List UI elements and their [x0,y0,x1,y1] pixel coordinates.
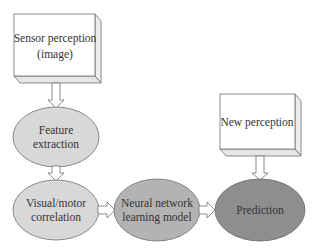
arrow-visual-to-neural [98,202,115,218]
feature-extraction-label: Feature [39,124,73,136]
visual-motor-sublabel: correlation [31,211,81,223]
prediction-label: Prediction [236,204,284,216]
arrow-sensor-to-feature [48,83,64,108]
flow-diagram: Sensor perception (image) Feature extrac… [0,0,317,249]
feature-extraction-sublabel: extraction [33,138,79,150]
prediction-node: Prediction [215,179,305,241]
sensor-perception-label: Sensor perception [14,32,97,45]
sensor-perception-sublabel: (image) [37,48,73,61]
visual-motor-correlation-node: Visual/motor correlation [13,180,99,240]
neural-network-label: Neural network [121,197,193,209]
new-perception-box: New perception [220,94,301,156]
neural-network-node: Neural network learning model [114,179,200,241]
sensor-perception-box: Sensor perception (image) [14,14,101,83]
arrow-newperception-to-prediction [252,156,268,180]
arrow-neural-to-prediction [199,202,215,218]
new-perception-label: New perception [220,116,293,129]
feature-extraction-node: Feature extraction [13,107,99,167]
neural-network-sublabel: learning model [122,211,191,224]
arrow-feature-to-visual [48,166,64,181]
visual-motor-label: Visual/motor [26,197,86,209]
